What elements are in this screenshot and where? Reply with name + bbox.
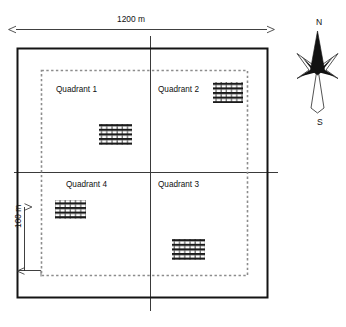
compass-rose-icon <box>297 31 338 113</box>
diagram-canvas: 1200 m 100 m Quadrant 1 Quadrant 2 Quadr… <box>0 0 346 327</box>
quadrant-4-label: Quadrant 4 <box>66 181 107 189</box>
buffer-dimension-label: 100 m <box>14 205 22 228</box>
quadrant-3-label: Quadrant 3 <box>158 181 199 189</box>
plot-quadrant-2 <box>213 82 243 103</box>
compass-north-label: N <box>316 18 322 27</box>
center-crosshair <box>14 36 278 311</box>
plot-quadrant-3 <box>172 239 205 260</box>
plot-quadrant-4 <box>55 200 86 219</box>
width-dimension-label: 1200 m <box>117 15 145 23</box>
quadrant-1-label: Quadrant 1 <box>56 86 97 94</box>
plot-quadrant-1 <box>99 124 132 145</box>
quadrant-2-label: Quadrant 2 <box>158 86 199 94</box>
compass-south-label: S <box>317 118 323 127</box>
site-plan-svg <box>0 0 346 327</box>
